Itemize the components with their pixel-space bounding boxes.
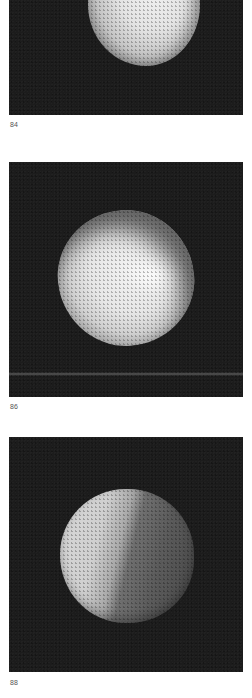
photo-figure-88 [9, 437, 243, 672]
sphere-image [49, 201, 203, 355]
sphere-image [60, 489, 194, 623]
horizon-line [9, 372, 243, 376]
sphere-image [88, 0, 200, 66]
photo-figure-84 [9, 0, 243, 115]
photo-figure-86 [9, 162, 243, 397]
figure-caption-86: 86 [10, 403, 18, 410]
figure-caption-88: 88 [10, 679, 18, 686]
figure-caption-84: 84 [10, 121, 18, 128]
